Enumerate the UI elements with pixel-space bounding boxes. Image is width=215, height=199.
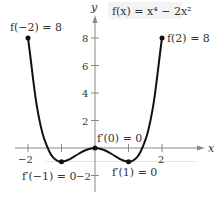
left-minimum-dot (59, 159, 64, 164)
left-endpoint-label: f(−2) = 8 (10, 21, 62, 34)
y-axis-arrow-icon (93, 15, 98, 23)
y-tick-label: 2 (82, 116, 88, 127)
x-axis-label: x (208, 142, 215, 155)
right-endpoint-label: f(2) = 8 (167, 32, 210, 45)
x-tick-label: 2 (158, 154, 164, 165)
function-label: f(x) = x⁴ − 2x² (112, 5, 192, 18)
left-minimum-label: f′(−1) = 0 (22, 170, 77, 183)
origin-critical-label: f′(0) = 0 (97, 132, 142, 145)
y-tick-label: 8 (82, 33, 88, 44)
y-axis-label: y (90, 1, 98, 14)
origin-critical-dot (93, 146, 98, 151)
y-axis: 8 6 4 2 −2 y (76, 1, 99, 192)
y-tick-label: 6 (82, 61, 88, 72)
y-tick-label: 4 (82, 88, 88, 99)
x-axis-arrow-icon (197, 146, 205, 151)
x-tick-label: −2 (18, 154, 33, 165)
y-tick-label: −2 (76, 171, 91, 182)
left-endpoint-dot (26, 36, 31, 41)
right-endpoint-dot (160, 36, 165, 41)
right-minimum-dot (126, 159, 131, 164)
function-graph: −2 2 x 8 6 4 2 −2 y f(x) = x⁴ − 2x² (0, 0, 215, 199)
right-minimum-label: f′(1) = 0 (112, 166, 157, 179)
